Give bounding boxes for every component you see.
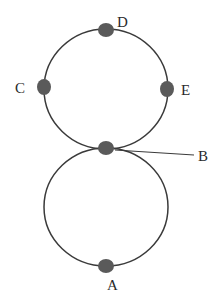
node-b-label: B [198, 148, 208, 164]
node-a-dot [98, 259, 114, 273]
node-e-label: E [181, 82, 190, 98]
node-b-dot [98, 141, 114, 155]
node-d-dot [98, 23, 114, 37]
node-d-label: D [117, 14, 128, 30]
node-e-dot [160, 81, 174, 97]
node-c-dot [37, 79, 51, 95]
node-c-label: C [15, 80, 25, 96]
figure-eight-diagram: D C E B A [0, 0, 222, 302]
node-a-label: A [107, 277, 118, 293]
